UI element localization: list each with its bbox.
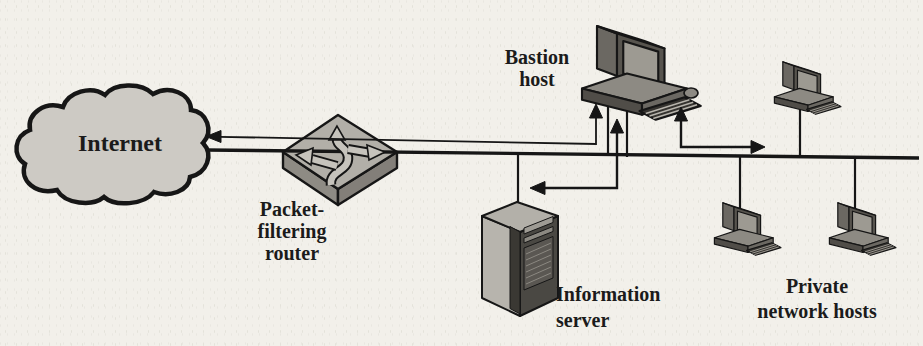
router-label-line3: router	[227, 242, 357, 264]
private-hosts-label-line1: Private	[732, 274, 902, 299]
packet-filtering-router-icon	[283, 115, 397, 205]
information-server-label-line2: server	[556, 307, 696, 333]
bastion-privatenet-arrow	[675, 107, 766, 154]
information-server-icon	[482, 202, 558, 316]
bastion-label-line1: Bastion	[482, 46, 592, 68]
bastion-host-label: Bastion host	[482, 46, 592, 90]
information-server-label-line1: Information	[556, 281, 696, 307]
packet-filtering-router-label: Packet- filtering router	[227, 198, 357, 264]
router-label-line1: Packet-	[227, 198, 357, 220]
network-diagram: Internet Bastion host Packet- filtering …	[0, 0, 923, 346]
private-host-top-icon	[774, 62, 841, 114]
bastion-infoserver-arrow	[530, 119, 624, 195]
private-host-right-icon	[829, 203, 896, 256]
internet-label-text: Internet	[55, 130, 185, 157]
router-internet-bastion-arrow	[206, 104, 603, 144]
bastion-host-icon	[582, 26, 701, 120]
private-hosts-label-line2: network hosts	[732, 299, 902, 324]
router-label-line2: filtering	[227, 220, 357, 242]
internet-label: Internet	[55, 130, 185, 157]
mouse-icon	[684, 88, 698, 98]
private-host-left-icon	[714, 203, 781, 256]
private-network-hosts-label: Private network hosts	[732, 274, 902, 324]
information-server-label: Information server	[556, 281, 696, 333]
bastion-label-line2: host	[482, 68, 592, 90]
